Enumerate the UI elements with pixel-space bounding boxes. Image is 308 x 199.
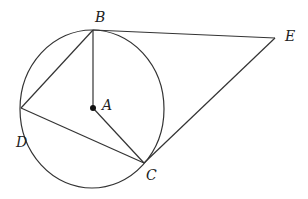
- label-d: D: [15, 134, 27, 150]
- label-c: C: [146, 167, 157, 183]
- label-b: B: [94, 9, 105, 25]
- segment-bd: [21, 30, 93, 108]
- label-e: E: [284, 28, 295, 44]
- center-point-a: [90, 105, 96, 111]
- segment-ac: [93, 108, 144, 163]
- segment-dc: [21, 108, 144, 163]
- geometry-diagram: B A D C E: [0, 0, 308, 199]
- label-a: A: [100, 97, 112, 113]
- diagram-canvas: B A D C E: [0, 0, 308, 199]
